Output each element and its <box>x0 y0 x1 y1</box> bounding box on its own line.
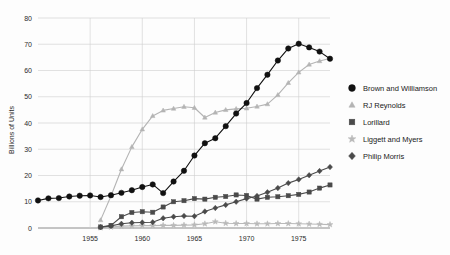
data-point <box>150 182 155 187</box>
chart-container: 01020304050607080 19551960196519701975 B… <box>0 0 450 255</box>
data-point <box>108 192 113 197</box>
data-point <box>328 183 332 187</box>
data-point <box>233 111 238 116</box>
legend-label: Brown and Williamson <box>363 84 437 93</box>
y-tick-label: 10 <box>24 198 32 205</box>
data-point <box>130 210 134 214</box>
x-tick-label: 1965 <box>187 235 203 242</box>
data-point <box>160 190 165 195</box>
data-point <box>213 195 217 199</box>
data-point <box>182 199 186 203</box>
data-point <box>297 192 301 196</box>
data-point <box>265 72 270 77</box>
data-point <box>87 193 92 198</box>
x-tick-label: 1970 <box>239 235 255 242</box>
data-point <box>307 190 311 194</box>
data-point <box>77 193 82 198</box>
data-point <box>203 197 207 201</box>
y-axis-ticks: 01020304050607080 <box>24 15 32 232</box>
data-point <box>213 136 218 141</box>
data-point <box>224 194 228 198</box>
legend-label: Lorillard <box>363 118 390 127</box>
legend-label: Philip Morris <box>363 152 405 161</box>
data-point <box>35 198 40 203</box>
y-tick-label: 60 <box>24 67 32 74</box>
data-point <box>234 193 238 197</box>
legend-label: RJ Reynolds <box>363 101 406 110</box>
x-tick-label: 1960 <box>134 235 150 242</box>
data-point <box>192 153 197 158</box>
data-point <box>306 45 311 50</box>
data-point <box>119 215 123 219</box>
data-point <box>202 141 207 146</box>
data-point <box>296 41 301 46</box>
data-point <box>317 49 322 54</box>
y-tick-label: 40 <box>24 120 32 127</box>
x-tick-label: 1975 <box>291 235 307 242</box>
data-point <box>317 186 321 190</box>
y-tick-label: 70 <box>24 41 32 48</box>
y-tick-label: 30 <box>24 146 32 153</box>
legend-marker-circle-icon <box>349 85 356 92</box>
line-chart: 01020304050607080 19551960196519701975 B… <box>0 0 450 255</box>
data-point <box>140 210 144 214</box>
data-point <box>46 196 51 201</box>
data-point <box>119 190 124 195</box>
data-point <box>181 168 186 173</box>
data-point <box>286 46 291 51</box>
data-point <box>192 197 196 201</box>
y-tick-label: 50 <box>24 93 32 100</box>
y-tick-label: 0 <box>28 225 32 232</box>
data-point <box>275 58 280 63</box>
y-tick-label: 80 <box>24 15 32 22</box>
data-point <box>171 200 175 204</box>
data-point <box>98 194 103 199</box>
data-point <box>151 210 155 214</box>
data-point <box>327 56 332 61</box>
y-tick-label: 20 <box>24 172 32 179</box>
data-point <box>223 123 228 128</box>
data-point <box>56 195 61 200</box>
data-point <box>265 195 269 199</box>
y-axis-title: Billions of Units <box>8 106 15 154</box>
legend-label: Liggett and Myers <box>363 135 423 144</box>
data-point <box>254 85 259 90</box>
data-point <box>129 188 134 193</box>
data-point <box>286 194 290 198</box>
data-point <box>244 100 249 105</box>
legend-marker-square-icon <box>349 119 355 125</box>
data-point <box>67 194 72 199</box>
data-point <box>171 179 176 184</box>
x-tick-label: 1955 <box>82 235 98 242</box>
data-point <box>140 184 145 189</box>
data-point <box>276 195 280 199</box>
data-point <box>161 205 165 209</box>
